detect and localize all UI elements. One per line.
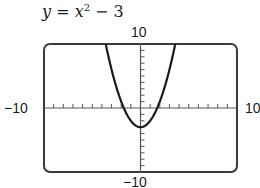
axes [44,44,237,172]
plot-area [0,0,260,188]
